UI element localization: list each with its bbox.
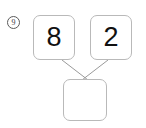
left-addend-value: 8 [46, 24, 61, 51]
left-addend-to-sum-line [62, 60, 88, 80]
problem-number-badge: 9 [7, 16, 20, 29]
number-bond-problem: 9 8 2 [0, 0, 146, 128]
left-addend-box[interactable]: 8 [33, 15, 75, 60]
sum-answer-box[interactable] [63, 79, 107, 121]
right-addend-box[interactable]: 2 [90, 15, 132, 60]
right-addend-value: 2 [103, 24, 118, 51]
problem-number-label: 9 [12, 19, 16, 27]
right-addend-to-sum-line [82, 60, 108, 80]
